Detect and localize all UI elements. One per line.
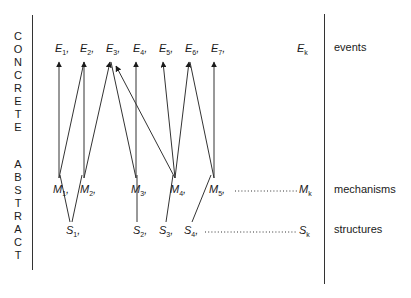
mechanism-m5: M5, [209, 183, 225, 197]
edge-m4-e6 [175, 62, 189, 178]
mechanism-m4: M4, [170, 183, 186, 197]
event-e6: E6, [185, 42, 199, 56]
mechanism-m1: M1, [53, 183, 69, 197]
edge-m1-e2 [59, 62, 84, 178]
structure-s1: S1, [66, 224, 80, 238]
mechanism-m3: M3, [131, 183, 147, 197]
edge-m2-e3 [84, 62, 110, 178]
structures-label: structures [334, 223, 382, 235]
event-e1: E1, [55, 42, 69, 56]
events-label: events [334, 41, 366, 53]
edge-m5-e6 [190, 62, 214, 178]
structure-s4: S4, [184, 224, 198, 238]
structure-sk: Sk [299, 224, 310, 238]
event-e5: E5, [159, 42, 173, 56]
event-e4: E4, [133, 42, 147, 56]
mechanism-mk: Mk [299, 183, 312, 197]
structure-s2: S2, [133, 224, 147, 238]
event-e7: E7, [211, 42, 225, 56]
event-e3: E3, [106, 42, 120, 56]
structure-s3: S3, [159, 224, 173, 238]
edge-m4-e3 [116, 66, 175, 178]
mechanisms-label: mechanisms [334, 183, 396, 195]
edge-m4-e5 [163, 62, 175, 178]
event-e2: E2, [80, 42, 94, 56]
event-ek: Ek [297, 42, 308, 56]
mechanism-m2: M2, [80, 183, 96, 197]
